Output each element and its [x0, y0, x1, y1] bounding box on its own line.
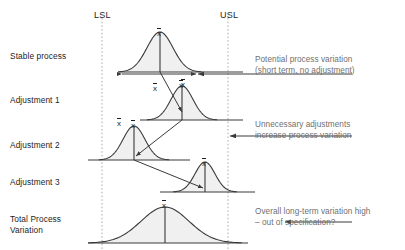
mean-symbol-shift-adjustment-2: x [117, 118, 121, 128]
note-overall-long-term-variation: Overall long-term variation high – out o… [255, 207, 370, 228]
distribution-curves [88, 32, 255, 243]
mean-symbol-shift-stable-process: x [153, 83, 157, 93]
note-potential-process-variation: Potential process variation (short term,… [255, 55, 355, 76]
curve-group-total-process-variation [88, 207, 248, 243]
shift-arrow-shift-3 [134, 160, 203, 188]
curve-group-adjustment-2 [88, 126, 190, 160]
note-unnecessary-adjustments: Unnecessary adjustments increase process… [255, 120, 351, 141]
curve-group-stable-process [118, 32, 243, 72]
process-variation-figure: LSL USL Stable processAdjustment 1Adjust… [0, 0, 405, 250]
mean-symbol-total-process-variation: x [162, 200, 166, 210]
mean-symbol-stable-process: x [157, 28, 161, 38]
row-label-total-process-variation: Total Process Variation [10, 214, 61, 235]
lsl-label: LSL [94, 10, 111, 20]
annotation-arrows [122, 72, 352, 222]
curve-group-adjustment-3 [160, 162, 255, 192]
row-label-adjustment-1: Adjustment 1 [10, 95, 60, 106]
mean-symbol-adjustment-3: x [202, 158, 206, 168]
usl-label: USL [220, 10, 238, 20]
mean-symbol-shift-adjustment-1: x [181, 79, 185, 89]
row-label-adjustment-2: Adjustment 2 [10, 140, 60, 151]
row-label-stable-process: Stable process [10, 51, 66, 62]
mean-symbol-adjustment-2: x [131, 120, 135, 130]
row-label-adjustment-3: Adjustment 3 [10, 177, 60, 188]
